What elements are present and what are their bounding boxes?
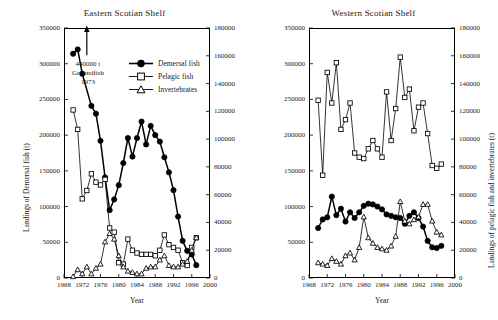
legend: Demersal fish Pelagic fish Invertebrates xyxy=(128,57,200,96)
panel-western-scotian-shelf: Western Scotian Shelf 050000100000150000… xyxy=(249,0,498,320)
y-tick-label-right: 80000 xyxy=(459,163,477,170)
x-tick-label: 1984 xyxy=(375,282,389,289)
x-tick-label: 1996 xyxy=(430,282,444,289)
x-tick-label: 1968 xyxy=(57,282,71,289)
y-tick-label-right: 100000 xyxy=(214,136,235,143)
y-tick-label-right: 180000 xyxy=(459,25,480,32)
x-axis-title: Year xyxy=(375,296,389,305)
x-tick-label: 1980 xyxy=(357,282,371,289)
y-tick-label-right: 20000 xyxy=(459,247,477,254)
open-triangle-icon xyxy=(128,84,154,95)
y-tick-label-left: 200000 xyxy=(8,132,60,139)
x-tick-label: 1976 xyxy=(339,282,353,289)
legend-item-invertebrates: Invertebrates xyxy=(128,83,200,96)
y-tick-label-left: 100000 xyxy=(253,203,305,210)
x-axis-title: Year xyxy=(130,296,144,305)
x-tick-label: 1968 xyxy=(302,282,316,289)
y-tick-label-left: 200000 xyxy=(253,132,305,139)
x-tick-label: 1988 xyxy=(393,282,407,289)
legend-item-demersal-fish: Demersal fish xyxy=(128,57,200,70)
y-tick-label-left: 50000 xyxy=(8,239,60,246)
legend-label: Invertebrates xyxy=(158,86,197,94)
y-tick-label-right: 140000 xyxy=(214,80,235,87)
y-tick-label-left: 300000 xyxy=(8,60,60,67)
open-square-icon xyxy=(128,71,154,82)
y-tick-label-right: 60000 xyxy=(214,191,232,198)
y-tick-label-left: 150000 xyxy=(8,167,60,174)
y-tick-label-right: 160000 xyxy=(214,52,235,59)
y-tick-label-left: 150000 xyxy=(253,167,305,174)
x-tick-label: 1996 xyxy=(185,282,199,289)
x-tick-label: 2000 xyxy=(203,282,217,289)
y-tick-label-right: 120000 xyxy=(459,108,480,115)
plot-canvas xyxy=(249,0,498,320)
annotation-line-2: Groundfish xyxy=(72,69,104,78)
y-tick-label-left: 250000 xyxy=(8,96,60,103)
y-tick-label-right: 20000 xyxy=(214,247,232,254)
panel-eastern-scotian-shelf: Eastern Scotian Shelf 050000100000150000… xyxy=(0,0,249,320)
y-tick-label-right: 120000 xyxy=(214,108,235,115)
y-tick-label-right: 40000 xyxy=(459,219,477,226)
series-pelagic-fish xyxy=(316,55,444,177)
x-tick-label: 1972 xyxy=(75,282,89,289)
x-tick-label: 1976 xyxy=(94,282,108,289)
y-tick-label-right: 100000 xyxy=(459,136,480,143)
annotation-line-1: 440000 t xyxy=(72,60,104,69)
x-tick-label: 1984 xyxy=(130,282,144,289)
y-tick-label-right: 80000 xyxy=(214,163,232,170)
filled-circle-icon xyxy=(128,58,154,69)
series-pelagic-fish xyxy=(71,108,199,268)
y-tick-label-right: 180000 xyxy=(214,25,235,32)
x-tick-label: 1992 xyxy=(412,282,426,289)
y-tick-label-left: 350000 xyxy=(8,25,60,32)
annotation-line-3: 1973 xyxy=(72,78,104,87)
y-tick-label-left: 0 xyxy=(8,275,60,282)
plot-canvas xyxy=(0,0,249,320)
y-tick-label-right: 60000 xyxy=(459,191,477,198)
legend-label: Pelagic fish xyxy=(158,73,193,81)
y-tick-label-left: 50000 xyxy=(253,239,305,246)
groundfish-annotation: 440000 t Groundfish 1973 xyxy=(72,60,104,86)
y-tick-label-left: 100000 xyxy=(8,203,60,210)
y-tick-label-left: 250000 xyxy=(253,96,305,103)
x-tick-label: 1980 xyxy=(112,282,126,289)
y-tick-label-left: 300000 xyxy=(253,60,305,67)
annotation-arrow xyxy=(84,25,90,55)
series-demersal-fish xyxy=(316,194,444,251)
figure-root: Eastern Scotian Shelf 050000100000150000… xyxy=(0,0,498,320)
y-tick-label-right: 160000 xyxy=(459,52,480,59)
y-tick-label-left: 350000 xyxy=(253,25,305,32)
x-tick-label: 1992 xyxy=(167,282,181,289)
y-tick-label-left: 0 xyxy=(253,275,305,282)
legend-label: Demersal fish xyxy=(158,60,200,68)
y-axis-title-right: Landings of pelagic fish and invertebrat… xyxy=(487,133,496,268)
legend-item-pelagic-fish: Pelagic fish xyxy=(128,70,200,83)
x-tick-label: 1972 xyxy=(320,282,334,289)
x-tick-label: 2000 xyxy=(448,282,462,289)
y-axis-title-left: Landings of Demersal fish (t) xyxy=(22,143,31,232)
y-tick-label-right: 140000 xyxy=(459,80,480,87)
x-tick-label: 1988 xyxy=(148,282,162,289)
y-tick-label-right: 40000 xyxy=(214,219,232,226)
